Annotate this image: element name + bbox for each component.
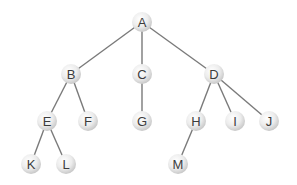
tree-diagram: ABCDEFGHIJKLM xyxy=(0,0,297,185)
node-label: E xyxy=(43,114,52,129)
node-label: M xyxy=(173,157,184,172)
tree-node-a: A xyxy=(132,12,152,32)
node-label: K xyxy=(27,157,36,172)
node-label: L xyxy=(62,157,69,172)
node-label: F xyxy=(84,114,92,129)
node-label: C xyxy=(137,67,146,82)
node-label: J xyxy=(266,114,273,129)
node-label: I xyxy=(233,114,237,129)
tree-node-i: I xyxy=(225,111,245,131)
tree-node-b: B xyxy=(61,64,81,84)
node-label: G xyxy=(137,114,147,129)
node-label: B xyxy=(67,67,76,82)
tree-node-g: G xyxy=(132,111,152,131)
tree-node-l: L xyxy=(56,154,76,174)
tree-node-f: F xyxy=(78,111,98,131)
node-label: D xyxy=(209,67,218,82)
edge-a-b xyxy=(71,22,142,74)
edge-a-d xyxy=(142,22,214,74)
edges-layer xyxy=(31,22,269,164)
tree-node-k: K xyxy=(21,154,41,174)
node-label: A xyxy=(138,15,147,30)
tree-node-h: H xyxy=(186,111,206,131)
tree-node-d: D xyxy=(204,64,224,84)
tree-node-m: M xyxy=(168,154,188,174)
tree-node-j: J xyxy=(259,111,279,131)
node-label: H xyxy=(191,114,200,129)
tree-node-e: E xyxy=(37,111,57,131)
tree-node-c: C xyxy=(132,64,152,84)
